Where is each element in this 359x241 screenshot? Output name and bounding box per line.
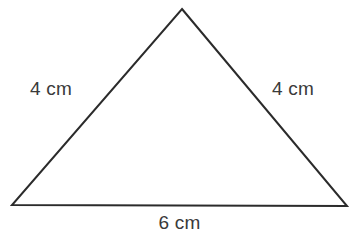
triangle-shape: [0, 0, 359, 241]
base-length-label: 6 cm: [0, 213, 359, 232]
left-side-length-label: 4 cm: [30, 79, 72, 98]
triangle-outline: [12, 9, 347, 206]
right-side-length-label: 4 cm: [272, 79, 314, 98]
triangle-diagram: 4 cm 4 cm 6 cm: [0, 0, 359, 241]
